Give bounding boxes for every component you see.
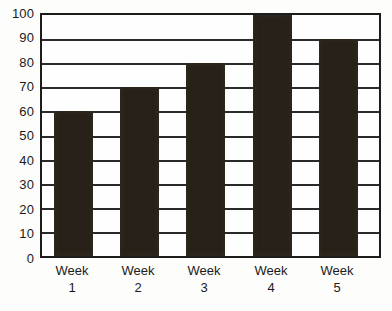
y-tick-label: 30 [0,178,34,191]
x-tick-label-name: Week [105,262,171,279]
plot-area [40,13,381,258]
x-tick-label-number: 2 [105,279,171,296]
x-tick-label-name: Week [171,262,237,279]
x-tick-label-name: Week [39,262,105,279]
bar-week-2 [120,87,159,256]
x-tick-label-number: 4 [238,279,304,296]
bar-week-1 [54,111,93,256]
x-tick-label-name: Week [238,262,304,279]
x-tick-label-week-3: Week 3 [171,262,237,296]
x-tick-label-number: 1 [39,279,105,296]
bars-layer [42,15,379,256]
y-tick-label: 70 [0,80,34,93]
y-tick-label: 10 [0,227,34,240]
y-tick-label: 100 [0,7,34,20]
y-axis: 100 90 80 70 60 50 40 30 20 10 0 [0,0,36,311]
y-tick-label: 20 [0,203,34,216]
bar-week-3 [186,63,225,256]
x-tick-label-week-1: Week 1 [39,262,105,296]
y-tick-label: 60 [0,105,34,118]
bar-chart-figure: 100 90 80 70 60 50 40 30 20 10 0 [0,0,392,311]
x-tick-label-week-5: Week 5 [304,262,370,296]
y-tick-label: 40 [0,154,34,167]
y-tick-label: 50 [0,129,34,142]
x-tick-label-name: Week [304,262,370,279]
bar-week-5 [319,39,358,256]
x-tick-label-number: 5 [304,279,370,296]
x-tick-label-week-2: Week 2 [105,262,171,296]
x-tick-label-number: 3 [171,279,237,296]
bar-week-4 [253,15,292,256]
y-tick-label: 80 [0,56,34,69]
x-tick-label-week-4: Week 4 [238,262,304,296]
y-tick-label: 0 [0,252,34,265]
x-axis: Week 1 Week 2 Week 3 Week 4 Week 5 [40,262,381,308]
y-tick-label: 90 [0,31,34,44]
